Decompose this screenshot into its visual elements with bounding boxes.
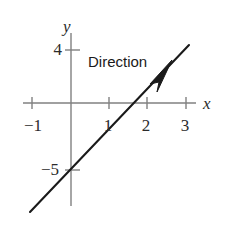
plot-canvas: [0, 0, 230, 225]
line-graph-figure: y x 4 −5 −1 1 2 3 Direction: [0, 0, 230, 225]
x-tick-label-3: 3: [173, 117, 197, 134]
x-tick-label-neg1: −1: [19, 117, 47, 134]
x-tick-label-2: 2: [134, 117, 158, 134]
y-tick-label-4: 4: [42, 41, 62, 58]
y-tick-label-neg5: −5: [21, 161, 59, 178]
x-tick-label-1: 1: [96, 117, 120, 134]
direction-annotation-label: Direction: [88, 54, 147, 69]
y-axis-label: y: [63, 18, 71, 35]
direction-arrow-icon: [150, 60, 172, 92]
x-axis-label: x: [203, 95, 211, 112]
